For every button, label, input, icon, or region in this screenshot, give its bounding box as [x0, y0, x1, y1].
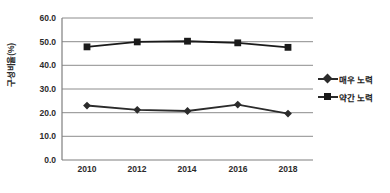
- legend-item-series2[interactable]: 약간 노력: [318, 88, 390, 106]
- legend-item-series1[interactable]: 매우 노력: [318, 70, 390, 88]
- x-axis-tick-label: 2016: [229, 164, 248, 174]
- square-marker-icon: [318, 91, 338, 103]
- data-series-layer: [83, 38, 292, 118]
- diamond-marker-icon: [318, 73, 338, 85]
- data-point-diamond: [184, 107, 192, 115]
- x-axis-tick-label: 2018: [279, 164, 298, 174]
- gridlines: [62, 18, 313, 136]
- legend-item-label: 약간 노력: [339, 91, 372, 103]
- data-point-square: [134, 39, 141, 46]
- legend-item-label: 매우 노력: [339, 73, 372, 85]
- data-point-square: [234, 39, 241, 46]
- data-point-square: [84, 43, 91, 50]
- data-point-square: [184, 38, 191, 45]
- x-axis-tick-label: 2012: [128, 164, 147, 174]
- data-point-diamond: [234, 101, 242, 109]
- x-axis-tick-label: 2014: [178, 164, 197, 174]
- x-axis-tick-label: 2010: [78, 164, 97, 174]
- data-point-diamond: [284, 110, 292, 118]
- chart-container: 구성비율(%) 60.0 50.0 40.0 30.0 20.0 10.0 0.…: [0, 0, 390, 193]
- chart-legend: 매우 노력 약간 노력: [318, 70, 390, 106]
- data-point-diamond: [83, 102, 91, 110]
- data-point-square: [285, 44, 292, 51]
